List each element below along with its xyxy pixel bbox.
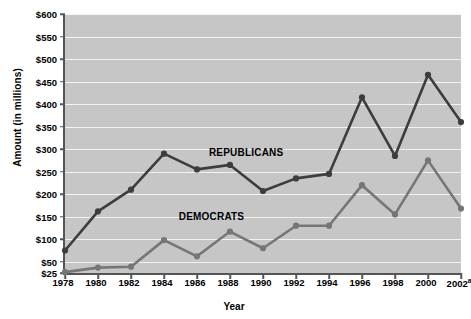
series-line xyxy=(65,75,461,251)
data-point xyxy=(326,223,332,229)
x-tick-label: 1984 xyxy=(151,277,172,288)
data-point xyxy=(359,94,365,100)
data-point xyxy=(227,162,233,168)
y-tick-label: $200 xyxy=(11,189,57,200)
y-tick-label: $450 xyxy=(11,76,57,87)
data-point xyxy=(95,264,101,270)
x-tick-label: 1992 xyxy=(283,277,304,288)
data-point xyxy=(392,211,398,217)
data-point xyxy=(458,119,464,125)
x-tick-label: 1990 xyxy=(250,277,271,288)
series-lines xyxy=(65,14,461,273)
data-point xyxy=(293,223,299,229)
y-tick-label: $300 xyxy=(11,144,57,155)
y-tick-label: $600 xyxy=(11,9,57,20)
y-tick-label: $350 xyxy=(11,121,57,132)
data-point xyxy=(260,245,266,251)
data-point xyxy=(326,171,332,177)
data-point xyxy=(194,166,200,172)
data-point xyxy=(359,182,365,188)
x-tick-label: 1980 xyxy=(85,277,106,288)
y-tick-label: $550 xyxy=(11,31,57,42)
series-line xyxy=(65,160,461,272)
data-point xyxy=(128,264,134,270)
y-tick-label: $250 xyxy=(11,166,57,177)
data-point xyxy=(161,151,167,157)
y-tick-label: $50 xyxy=(11,256,57,267)
y-tick-label: $500 xyxy=(11,54,57,65)
x-tick-label: 1996 xyxy=(349,277,370,288)
x-tick-label: 1982 xyxy=(118,277,139,288)
data-point xyxy=(260,188,266,194)
x-tick-label: 2002a xyxy=(447,277,471,289)
data-point xyxy=(62,269,68,275)
y-tick-label: $400 xyxy=(11,99,57,110)
data-point xyxy=(293,175,299,181)
data-point xyxy=(194,253,200,259)
x-tick-label: 1994 xyxy=(316,277,337,288)
x-tick-label: 2000 xyxy=(415,277,436,288)
x-tick-label: 1998 xyxy=(382,277,403,288)
x-tick-label: 1986 xyxy=(184,277,205,288)
data-point xyxy=(161,237,167,243)
plot-area xyxy=(63,14,461,275)
data-point xyxy=(62,247,68,253)
series-label-democrats: DEMOCRATS xyxy=(179,210,245,221)
data-point xyxy=(392,153,398,159)
data-point xyxy=(128,187,134,193)
y-tick-label: $100 xyxy=(11,234,57,245)
data-point xyxy=(227,228,233,234)
data-point xyxy=(425,72,431,78)
x-tick-label: 1978 xyxy=(52,277,73,288)
y-tick-label: $150 xyxy=(11,211,57,222)
data-point xyxy=(95,208,101,214)
x-axis-title: Year xyxy=(0,301,468,312)
x-tick-label: 1988 xyxy=(217,277,238,288)
data-point xyxy=(425,157,431,163)
series-label-republicans: REPUBLICANS xyxy=(209,147,283,158)
y-tick-label: $25 xyxy=(11,268,57,279)
data-point xyxy=(458,205,464,211)
